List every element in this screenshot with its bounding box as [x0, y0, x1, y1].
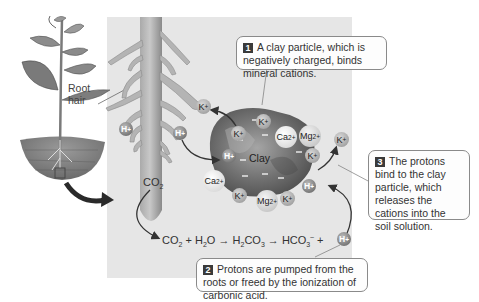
ion-hydrogen: H+: [119, 122, 133, 136]
clay-label: Clay: [249, 152, 270, 164]
root-illustration: [106, 17, 202, 221]
ion-potassium: K+: [232, 188, 247, 203]
step-number-1: 1: [243, 43, 253, 53]
step-number-3: 3: [375, 157, 385, 167]
root-hair-label-line1: Root: [68, 82, 90, 94]
plant-illustration: [20, 16, 128, 207]
ion-potassium: K+: [231, 126, 246, 141]
ion-potassium: K+: [280, 191, 295, 206]
ion-magnesium: Mg2+: [299, 125, 321, 147]
ion-magnesium: Mg2+: [256, 190, 278, 212]
ion-hydrogen: H+: [302, 179, 316, 193]
callout-3: 3The protons bind to the clay particle, …: [368, 150, 470, 220]
ion-hydrogen: H+: [222, 149, 236, 163]
ion-calcium: Ca2+: [203, 170, 225, 192]
ion-hydrogen: H+: [173, 126, 187, 140]
ion-hydrogen-equation: H+: [337, 232, 351, 246]
callout-2: 2Protons are pumped from the roots or fr…: [196, 258, 368, 292]
ion-potassium: K+: [305, 148, 320, 163]
callout-1: 1A clay particle, which is negatively ch…: [236, 36, 387, 70]
root-co2-label: CO2: [143, 176, 163, 190]
root-hair-label-line2: hair: [68, 94, 90, 106]
root-hair-label: Root hair: [68, 82, 90, 106]
carbonic-acid-equation: CO2 + H2O → H2CO3 → HCO3– +: [162, 233, 323, 248]
co2-subscript: 2: [160, 183, 164, 190]
ion-potassium-released: K+: [334, 132, 349, 147]
ion-potassium: K+: [256, 114, 271, 129]
step-number-2: 2: [203, 265, 213, 275]
ion-calcium: Ca2+: [275, 126, 297, 148]
ion-potassium: K+: [196, 99, 211, 114]
co2-text: CO: [143, 176, 160, 188]
